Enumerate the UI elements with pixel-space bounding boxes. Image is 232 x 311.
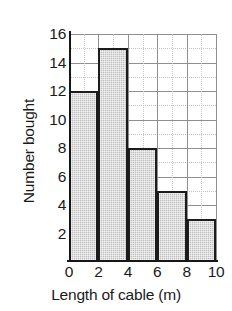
bars-group xyxy=(69,34,216,262)
x-axis-tick-label: 10 xyxy=(199,264,232,280)
plot-area xyxy=(69,34,216,262)
histogram-bar xyxy=(98,48,127,262)
grid-line-vertical xyxy=(216,34,217,262)
y-axis-tick-label: 2 xyxy=(34,226,66,242)
y-axis-tick-labels: 246810121416 xyxy=(34,34,66,262)
y-axis-tick-label: 14 xyxy=(34,55,66,71)
histogram-bar xyxy=(157,191,186,262)
y-axis-line xyxy=(69,31,71,262)
histogram-bar xyxy=(187,219,216,262)
y-axis-tick-label: 8 xyxy=(34,140,66,156)
histogram-figure: Number bought 246810121416 0246810 Lengt… xyxy=(0,0,232,311)
y-axis-tick-label: 10 xyxy=(34,112,66,128)
x-axis-line xyxy=(67,260,218,262)
x-axis-title: Length of cable (m) xyxy=(0,286,232,304)
y-axis-tick-label: 4 xyxy=(34,197,66,213)
y-axis-tick-label: 16 xyxy=(34,26,66,42)
x-axis-tick-labels: 0246810 xyxy=(69,264,216,284)
y-axis-tick-label: 6 xyxy=(34,169,66,185)
histogram-bar xyxy=(69,91,98,262)
histogram-bar xyxy=(128,148,157,262)
y-axis-tick-label: 12 xyxy=(34,83,66,99)
